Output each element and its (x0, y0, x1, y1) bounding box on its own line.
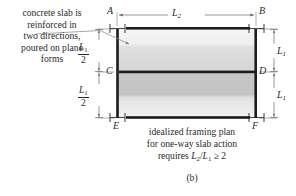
corner-label-C: C (106, 65, 113, 76)
half-L1-lower-numerator-subscript: 1 (84, 89, 87, 96)
half-L1-upper-denominator: 2 (78, 55, 89, 65)
corner-label-D: D (259, 65, 266, 76)
note-line-3: two directions, (2, 30, 102, 42)
dimension-label-half-L1-upper: L1 2 (78, 42, 89, 64)
caption-line-1: idealized framing plan (108, 126, 276, 138)
note-line-2: reinforced in (2, 19, 102, 31)
dimension-label-half-L1-lower: L1 2 (78, 85, 89, 107)
caption-line-2: for one-way slab action (108, 138, 276, 150)
panel-label: (b) (108, 172, 276, 183)
corner-label-A: A (107, 5, 113, 16)
dimension-label-L1-upper: L1 (277, 45, 286, 58)
half-L1-upper-numerator-subscript: 1 (84, 46, 87, 53)
figure-panel-b: concrete slab is reinforced in two direc… (0, 0, 296, 196)
beam-top (126, 27, 250, 30)
slab-surface (118, 30, 255, 117)
dimension-label-L1-lower: L1 (277, 89, 286, 102)
dimension-half-L1-lower (95, 73, 103, 118)
beam-middle (119, 71, 256, 74)
caption-line-3-suffix: ≥ 2 (211, 150, 226, 161)
dimension-label-L1-lower-subscript: 1 (283, 94, 287, 102)
caption-line-3-prefix: requires (158, 150, 191, 161)
note-line-1: concrete slab is (2, 7, 102, 19)
dimension-label-L1-upper-subscript: 1 (283, 50, 287, 58)
girder-left (116, 29, 119, 118)
figure-caption: idealized framing plan for one-way slab … (108, 126, 276, 164)
caption-line-3: requires L2/L1 ≥ 2 (108, 150, 276, 164)
dimension-label-L2: L2 (172, 7, 181, 20)
dimension-label-L2-subscript: 2 (178, 12, 182, 20)
half-L1-lower-denominator: 2 (78, 98, 89, 108)
girder-right (254, 29, 257, 118)
corner-label-B: B (259, 5, 265, 16)
beam-bottom (126, 116, 250, 119)
